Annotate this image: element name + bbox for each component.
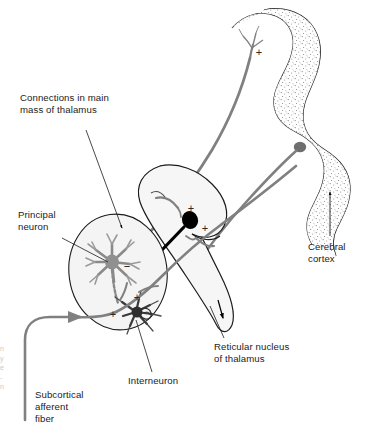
label-interneuron: Interneuron (128, 375, 178, 387)
label-connections-in-main-mass-of-thalamus: Connections in main mass of thalamus (20, 92, 109, 116)
label-subcortical-afferent-fiber: Subcortical afferent fiber (35, 389, 84, 426)
leader-connections (86, 130, 122, 228)
sign-plus-cortex: + (256, 46, 262, 58)
label-reticular-nucleus-of-thalamus: Reticular nucleus of thalamus (214, 341, 289, 365)
label-cerebral-cortex: Cerebral cortex (308, 241, 346, 265)
sign-plus-reticular-lower: + (202, 222, 208, 234)
sign-minus-principal: − (124, 260, 130, 272)
cerebral-cortex-band (232, 9, 350, 256)
sign-plus-interneuron-upper: + (134, 291, 140, 303)
thalamocortical-circuit-figure: + + + − + + Connections in main mass of … (0, 0, 365, 436)
page-margin-artifact: n y e - n (0, 344, 9, 392)
sign-plus-reticular-upper: + (188, 202, 194, 214)
label-principal-neuron: Principal neuron (18, 209, 56, 233)
cortical-terminal-arbor (239, 26, 263, 48)
sign-plus-interneuron-lower: + (110, 308, 116, 320)
